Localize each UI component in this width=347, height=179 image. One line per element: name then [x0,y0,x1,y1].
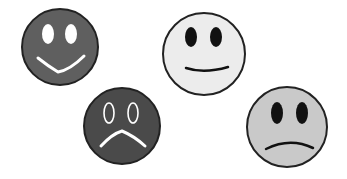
left-eye [271,102,283,124]
happy-dark-face-icon [22,9,98,85]
smiley-faces-canvas [0,0,347,179]
right-eye [65,24,77,44]
neutral-light-face-icon [163,13,245,95]
left-eye [42,24,54,44]
left-eye [185,27,197,47]
right-eye [210,27,222,47]
sad-gray-face-icon [247,87,327,167]
sad-dark-face-icon [84,88,160,164]
right-eye [296,102,308,124]
